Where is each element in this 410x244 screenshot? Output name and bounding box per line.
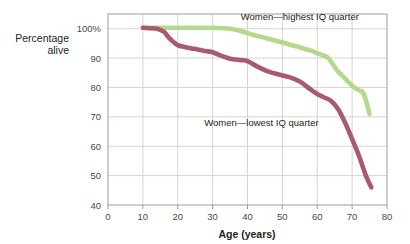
x-tick-label: 20 (172, 211, 183, 222)
x-tick-label: 40 (242, 211, 253, 222)
y-axis-title-line1: Percentage (15, 32, 69, 44)
y-tick-label: 80 (90, 82, 101, 93)
x-tick-label: 0 (105, 211, 110, 222)
y-axis-title-line2: alive (47, 44, 69, 56)
survival-line-chart: 01020304050607080 405060708090100% Women… (0, 0, 410, 244)
series-label-2: Women—lowest IQ quarter (204, 117, 318, 128)
x-tick-label: 80 (382, 211, 393, 222)
y-tick-label: 40 (90, 200, 101, 211)
chart-figure: 01020304050607080 405060708090100% Women… (0, 0, 410, 244)
y-tick-label: 60 (90, 141, 101, 152)
y-tick-label: 50 (90, 170, 101, 181)
x-tick-label: 60 (312, 211, 323, 222)
x-tick-label: 30 (207, 211, 218, 222)
series-label-1: Women—highest IQ quarter (241, 11, 359, 22)
y-tick-label: 70 (90, 111, 101, 122)
x-tick-label: 50 (277, 211, 288, 222)
x-tick-label: 10 (138, 211, 149, 222)
y-tick-label: 90 (90, 53, 101, 64)
x-tick-label: 70 (347, 211, 358, 222)
x-axis-title: Age (years) (218, 228, 275, 240)
y-tick-label: 100% (77, 23, 102, 34)
